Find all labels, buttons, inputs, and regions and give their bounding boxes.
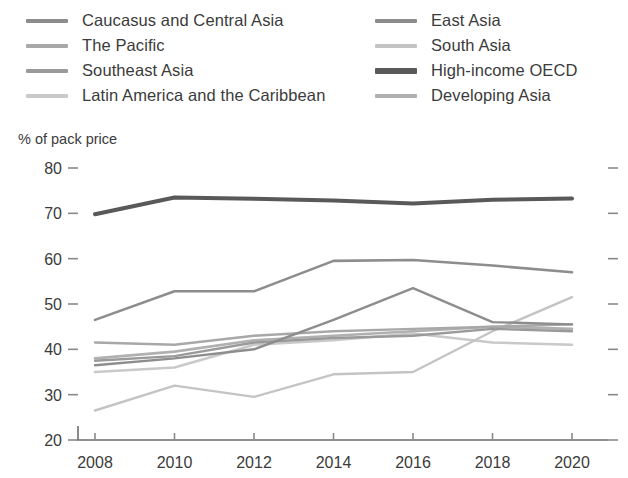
legend-item[interactable]: Southeast Asia xyxy=(26,58,325,83)
x-axis-tick-label: 2016 xyxy=(395,454,431,471)
x-axis-tick-label: 2008 xyxy=(77,454,113,471)
chart-axis-lines xyxy=(78,426,608,440)
legend-item-label: High-income OECD xyxy=(431,61,577,80)
chart-container: Caucasus and Central AsiaThe PacificSout… xyxy=(0,0,628,478)
legend-swatch-icon xyxy=(375,44,417,48)
y-axis-title: % of pack price xyxy=(18,131,117,147)
legend-item-label: East Asia xyxy=(431,11,501,30)
legend-column-right: East AsiaSouth AsiaHigh-income OECDDevel… xyxy=(375,8,577,108)
x-axis-tick-label: 2020 xyxy=(554,454,590,471)
legend-item[interactable]: High-income OECD xyxy=(375,58,577,83)
legend-item[interactable]: Developing Asia xyxy=(375,83,577,108)
legend-item-label: Southeast Asia xyxy=(82,61,193,80)
plot-area: 8070605040302020082010201220142016201820… xyxy=(0,150,628,478)
legend-swatch-icon xyxy=(375,68,417,74)
line-chart-svg: 8070605040302020082010201220142016201820… xyxy=(0,150,628,478)
y-axis-tick-label: 70 xyxy=(44,205,62,222)
legend-swatch-icon xyxy=(26,69,68,73)
legend-swatch-icon xyxy=(375,19,417,23)
legend-item-label: Developing Asia xyxy=(431,86,551,105)
legend-column-left: Caucasus and Central AsiaThe PacificSout… xyxy=(26,8,325,108)
legend-item-label: The Pacific xyxy=(82,36,165,55)
y-axis-tick-label: 30 xyxy=(44,387,62,404)
y-axis-tick-label: 80 xyxy=(44,160,62,177)
x-axis-tick-label: 2010 xyxy=(157,454,193,471)
x-axis-tick-label: 2012 xyxy=(236,454,272,471)
series-line xyxy=(95,260,572,320)
legend-item[interactable]: Latin America and the Caribbean xyxy=(26,83,325,108)
y-axis-tick-label: 50 xyxy=(44,296,62,313)
legend-item-label: Latin America and the Caribbean xyxy=(82,86,325,105)
x-axis-tick-label: 2018 xyxy=(475,454,511,471)
x-axis-tick-label: 2014 xyxy=(316,454,352,471)
y-axis-tick-label: 60 xyxy=(44,251,62,268)
series-line xyxy=(95,198,572,215)
legend-swatch-icon xyxy=(26,94,68,98)
legend-item[interactable]: Caucasus and Central Asia xyxy=(26,8,325,33)
y-axis-tick-label: 40 xyxy=(44,341,62,358)
legend-item[interactable]: East Asia xyxy=(375,8,577,33)
chart-legend: Caucasus and Central AsiaThe PacificSout… xyxy=(0,0,628,112)
legend-item[interactable]: The Pacific xyxy=(26,33,325,58)
legend-item-label: Caucasus and Central Asia xyxy=(82,11,284,30)
legend-item-label: South Asia xyxy=(431,36,511,55)
legend-item[interactable]: South Asia xyxy=(375,33,577,58)
legend-swatch-icon xyxy=(26,44,68,48)
legend-swatch-icon xyxy=(26,19,68,23)
legend-swatch-icon xyxy=(375,94,417,98)
series-line xyxy=(95,297,572,410)
y-axis-tick-label: 20 xyxy=(44,432,62,449)
